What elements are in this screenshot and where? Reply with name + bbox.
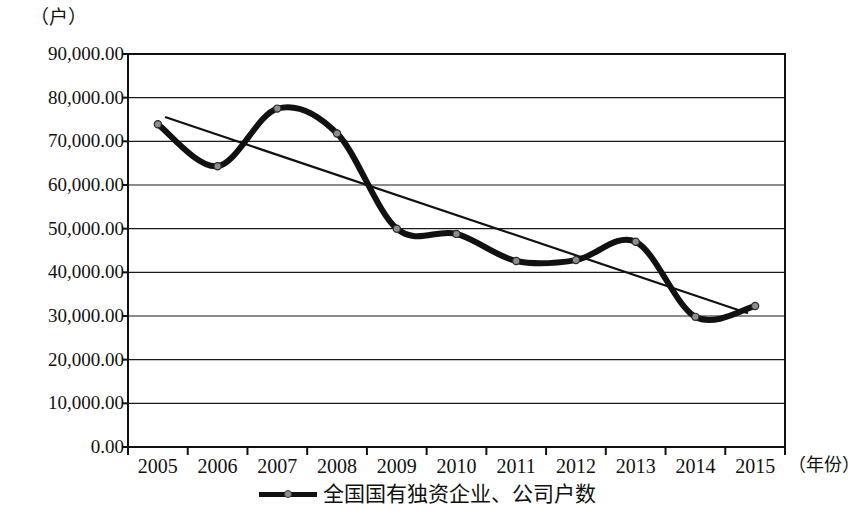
- x-axis-tick-label: 2005: [128, 456, 188, 476]
- x-axis-tick-label: 2014: [665, 456, 725, 476]
- x-axis-tick-label: 2006: [188, 456, 248, 476]
- y-axis-tick-label: 60,000.00: [2, 175, 124, 194]
- y-axis-tick-label: 20,000.00: [2, 350, 124, 369]
- y-axis-tick-label: 0.00: [2, 437, 124, 456]
- y-axis-tick-label: 30,000.00: [2, 306, 124, 325]
- gridlines: [128, 54, 785, 447]
- x-axis-tick-label: 2011: [486, 456, 546, 476]
- y-axis-tick-label: 80,000.00: [2, 88, 124, 107]
- x-axis-tick-label: 2008: [307, 456, 367, 476]
- legend-line-marker-icon: [259, 488, 317, 500]
- y-axis-tick-labels: 90,000.0080,000.0070,000.0060,000.0050,0…: [0, 0, 124, 510]
- chart-container: （户） 90,000.0080,000.0070,000.0060,000.00…: [0, 0, 854, 510]
- y-axis-tick-label: 70,000.00: [2, 131, 124, 150]
- x-axis-tick-label: 2013: [606, 456, 666, 476]
- x-axis-title: （年份）: [788, 455, 854, 475]
- x-axis-tick-label: 2009: [367, 456, 427, 476]
- y-axis-tick-label: 90,000.00: [2, 44, 124, 63]
- trend-line: [166, 117, 747, 313]
- x-axis-tick-label: 2015: [725, 456, 785, 476]
- axis-frame: [122, 54, 785, 447]
- x-axis-tick-label: 2007: [247, 456, 307, 476]
- plot-area: [0, 0, 854, 510]
- y-axis-tick-label: 10,000.00: [2, 393, 124, 412]
- legend-label: 全国国有独资企业、公司户数: [323, 483, 596, 505]
- chart-legend: 全国国有独资企业、公司户数: [0, 483, 854, 505]
- x-axis-ticks: [128, 447, 785, 455]
- x-axis-tick-label: 2012: [546, 456, 606, 476]
- data-series-line: [158, 107, 755, 320]
- y-axis-tick-label: 40,000.00: [2, 262, 124, 281]
- x-axis-tick-label: 2010: [427, 456, 487, 476]
- y-axis-tick-label: 50,000.00: [2, 219, 124, 238]
